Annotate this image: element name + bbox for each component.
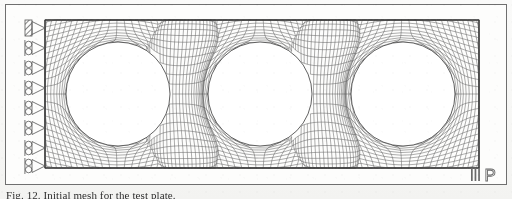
publisher-logo: P bbox=[471, 166, 496, 185]
logo-bar bbox=[475, 168, 477, 181]
figure-caption: Fig. 12. Initial mesh for the test plate… bbox=[6, 189, 426, 199]
support-roller-3 bbox=[25, 60, 45, 76]
support-fixed-1 bbox=[25, 20, 45, 36]
plate-outline bbox=[45, 20, 479, 168]
support-roller-7 bbox=[25, 140, 45, 156]
scanned-page: P Fig. 12. Initial mesh for the test pla… bbox=[0, 0, 512, 199]
support-roller-4 bbox=[25, 80, 45, 96]
logo-letter: P bbox=[485, 166, 496, 185]
support-roller-6 bbox=[25, 120, 45, 136]
logo-bar bbox=[471, 168, 473, 181]
support-roller-5 bbox=[25, 100, 45, 116]
logo-bar bbox=[478, 168, 480, 181]
support-roller-8 bbox=[25, 158, 45, 174]
support-roller-2 bbox=[25, 40, 45, 56]
boundary-supports bbox=[25, 20, 45, 174]
figure-canvas: P bbox=[5, 4, 507, 185]
figure-caption-text: Fig. 12. Initial mesh for the test plate… bbox=[6, 189, 426, 199]
